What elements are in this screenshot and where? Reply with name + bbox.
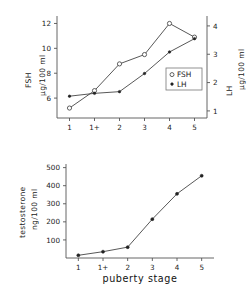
x-axis-title: puberty stage [102, 273, 177, 284]
right-axis-series-label: LH [225, 85, 234, 96]
data-point [193, 37, 196, 40]
tick-label: 5 [192, 123, 197, 132]
data-point [168, 51, 171, 54]
tick-label: 2 [213, 78, 218, 87]
data-point [176, 192, 179, 195]
left-axis-title: FSH µg/100 ml [24, 55, 47, 96]
tick-label: 4 [175, 263, 180, 272]
right-axis-units-label: µg/100 ml [237, 49, 246, 90]
data-point [77, 254, 80, 257]
data-point [118, 90, 121, 93]
right-axis-title: µg/100 ml LH [225, 49, 246, 96]
tick-label: 3 [150, 263, 155, 272]
tick-label: 100 [46, 236, 60, 245]
figure-page: 121086 4321 11+2345 FSHLH FSH [0, 0, 250, 292]
tick-label: 6 [46, 94, 51, 103]
data-point [142, 52, 146, 56]
x-axis-ticks: 11+2345 [67, 118, 197, 132]
legend-label: LH [177, 80, 187, 89]
x-axis: 11+2345 [57, 118, 207, 132]
tick-label: 4 [213, 22, 218, 31]
data-point [151, 218, 154, 221]
data-point [200, 174, 203, 177]
data-point [117, 62, 121, 66]
x-axis-ticks: 11+2345 [76, 258, 204, 272]
fsh-markers [67, 21, 196, 110]
series-group [67, 21, 196, 110]
legend: FSHLH [166, 68, 202, 90]
tick-label: 10 [42, 44, 52, 53]
tick-label: 1+ [89, 123, 100, 132]
tick-label: 3 [142, 123, 147, 132]
tick-label: 500 [46, 163, 60, 172]
fsh-lh-plot: 121086 4321 11+2345 FSHLH FSH [0, 0, 250, 150]
right-axis: 4321 [207, 16, 218, 118]
testosterone-series-line [78, 176, 201, 256]
series-group [77, 174, 203, 257]
data-point [68, 95, 71, 98]
legend-marker-fsh [170, 73, 174, 77]
tick-label: 4 [167, 123, 172, 132]
fsh-series-line [70, 23, 195, 108]
testosterone-plot: 500400300200100 11+2345 testosterone ng/… [0, 150, 250, 292]
data-point [67, 106, 71, 110]
legend-marker-lh [171, 83, 174, 86]
testosterone-axis-label: testosterone [18, 186, 27, 238]
tick-label: 5 [199, 263, 204, 272]
left-axis-units-label: µg/100 ml [38, 55, 47, 96]
tick-label: 1+ [98, 263, 109, 272]
data-point [93, 92, 96, 95]
tick-label: 2 [125, 263, 130, 272]
tick-label: 1 [76, 263, 81, 272]
left-axis-title: testosterone ng/100 ml [18, 186, 39, 238]
right-axis-ticks: 4321 [207, 22, 218, 116]
left-axis: 500400300200100 [46, 163, 66, 258]
left-axis-series-label: FSH [24, 72, 33, 88]
data-point [126, 246, 129, 249]
tick-label: 300 [46, 199, 60, 208]
tick-label: 200 [46, 217, 60, 226]
left-axis-ticks: 500400300200100 [46, 163, 66, 244]
tick-label: 400 [46, 181, 60, 190]
tick-label: 3 [213, 50, 218, 59]
tick-label: 1 [67, 123, 72, 132]
tick-label: 12 [42, 19, 51, 28]
testosterone-units-label: ng/100 ml [30, 189, 39, 230]
legend-label: FSH [177, 70, 191, 79]
tick-label: 8 [46, 69, 51, 78]
x-axis: 11+2345 [66, 258, 214, 272]
data-point [102, 250, 105, 253]
tick-label: 2 [117, 123, 122, 132]
testosterone-markers [77, 174, 203, 257]
tick-label: 1 [213, 107, 218, 116]
data-point [167, 21, 171, 25]
data-point [143, 72, 146, 75]
fsh-lh-figure: 121086 4321 11+2345 FSHLH FSH [0, 0, 250, 150]
testosterone-figure: 500400300200100 11+2345 testosterone ng/… [0, 150, 250, 292]
